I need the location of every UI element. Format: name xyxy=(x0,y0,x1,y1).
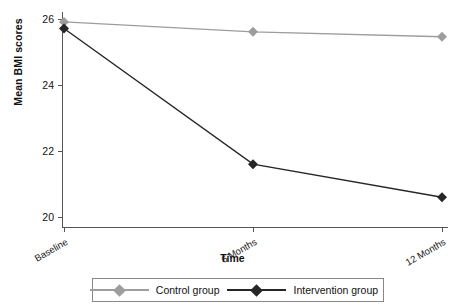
y-tick-label: 24 xyxy=(28,79,54,91)
legend-label: Intervention group xyxy=(286,284,386,296)
x-axis-title: Time xyxy=(0,252,465,264)
legend-item[interactable]: Intervention group xyxy=(227,284,386,296)
y-tick-label: 20 xyxy=(28,211,54,223)
y-tick-label: 22 xyxy=(28,145,54,157)
x-tick-mark xyxy=(253,227,254,232)
x-tick-mark xyxy=(64,227,65,232)
data-point-marker xyxy=(248,159,258,169)
legend-item[interactable]: Control group xyxy=(90,284,228,296)
x-tick-label: Baseline xyxy=(0,236,70,306)
data-point-marker xyxy=(437,192,447,202)
legend-label: Control group xyxy=(149,284,228,296)
legend-line-right xyxy=(260,289,286,291)
legend-diamond-icon xyxy=(113,284,126,297)
series-line xyxy=(64,29,442,198)
y-axis-title: Mean BMI scores xyxy=(12,0,24,132)
x-axis-line xyxy=(62,227,448,228)
plot-area xyxy=(62,12,448,227)
series-layer xyxy=(62,12,448,227)
legend-line-right xyxy=(123,289,149,291)
chart-legend: Control groupIntervention group xyxy=(92,278,384,302)
chart-figure: Mean BMI scores 20222426 Baseline6 Month… xyxy=(0,0,465,308)
data-point-marker xyxy=(248,27,258,37)
data-point-marker xyxy=(437,32,447,42)
data-point-marker xyxy=(59,24,69,34)
y-tick-label: 26 xyxy=(28,13,54,25)
legend-diamond-icon xyxy=(251,284,264,297)
x-tick-mark xyxy=(442,227,443,232)
